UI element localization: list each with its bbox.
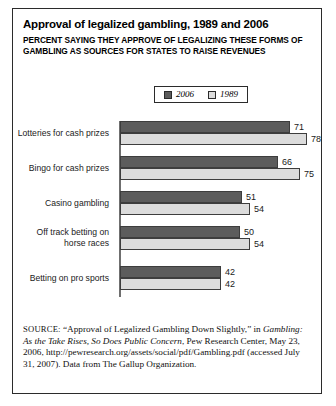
bar-2006 (120, 191, 242, 203)
bar-group: Bingo for cash prizes 66 75 (13, 156, 321, 191)
legend-label-2006: 2006 (176, 90, 194, 99)
bar-group: Betting on pro sports 42 42 (13, 266, 321, 301)
figure-frame: Approval of legalized gambling, 1989 and… (12, 8, 322, 394)
legend-item-2006: 2006 (164, 90, 194, 99)
legend-label-1989: 1989 (220, 90, 238, 99)
bar-2006 (120, 156, 278, 168)
bar-value-2006: 66 (282, 156, 292, 168)
bar-value-2006: 71 (294, 121, 304, 133)
category-label-line2: horse races (0, 238, 109, 249)
bar-1989 (120, 203, 250, 215)
source-label: SOURCE: (23, 324, 61, 334)
bar-value-2006: 51 (246, 191, 256, 203)
plot-area: Lotteries for cash prizes 71 78 Bingo fo… (13, 115, 321, 305)
bar-1989 (120, 168, 300, 180)
legend-item-1989: 1989 (208, 90, 238, 99)
bar-1989 (120, 238, 250, 250)
category-label: Casino gambling (0, 198, 109, 209)
category-label: Bingo for cash prizes (0, 163, 109, 174)
bar-value-1989: 78 (311, 133, 321, 145)
legend-swatch-2006 (164, 91, 172, 99)
legend-swatch-1989 (208, 91, 216, 99)
category-label: Off track betting on (0, 227, 109, 238)
bar-2006 (120, 226, 240, 238)
bar-1989 (120, 133, 307, 145)
page-title: Approval of legalized gambling, 1989 and… (23, 17, 311, 31)
title-block: Approval of legalized gambling, 1989 and… (13, 9, 321, 56)
bar-group: Lotteries for cash prizes 71 78 (13, 121, 321, 156)
source-text-part1: “Approval of Legalized Gambling Down Sli… (61, 324, 263, 334)
bar-value-2006: 42 (225, 266, 235, 278)
chart-legend: 2006 1989 (154, 86, 248, 103)
bar-value-1989: 75 (304, 168, 314, 180)
bar-group: Off track betting on horse races 50 54 (13, 226, 321, 261)
category-label: Lotteries for cash prizes (0, 128, 109, 139)
bar-group: Casino gambling 51 54 (13, 191, 321, 226)
bar-1989 (120, 278, 221, 290)
category-label: Betting on pro sports (0, 273, 109, 284)
bar-value-2006: 50 (244, 226, 254, 238)
bar-value-1989: 42 (225, 278, 235, 290)
bar-2006 (120, 121, 290, 133)
source-note: SOURCE: “Approval of Legalized Gambling … (23, 324, 309, 370)
bar-value-1989: 54 (254, 203, 264, 215)
bar-2006 (120, 266, 221, 278)
chart-subtitle: PERCENT SAYING THEY APPROVE OF LEGALIZIN… (23, 35, 311, 56)
bar-value-1989: 54 (254, 238, 264, 250)
